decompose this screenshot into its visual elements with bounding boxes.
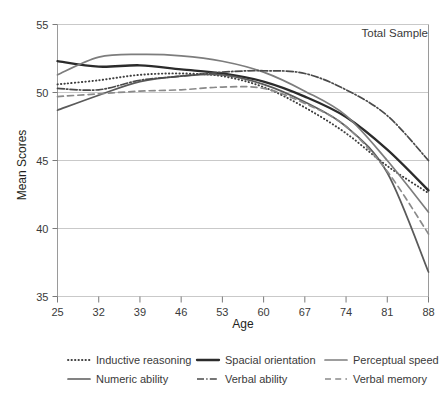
x-axis-title: Age [232,317,254,331]
x-tick-label: 53 [216,306,228,318]
legend-label: Inductive reasoning [96,354,191,366]
y-tick-label: 40 [36,223,48,235]
legend-label: Perceptual speed [353,354,439,366]
y-tick-label: 50 [36,87,48,99]
y-tick-label: 35 [36,291,48,303]
legend-item-verbal-ability[interactable]: Verbal ability [197,373,288,385]
x-tick-label: 60 [257,306,269,318]
x-tick-label: 39 [134,306,146,318]
series-line-inductive-reasoning [58,73,429,193]
chart-legend: Inductive reasoningSpacial orientationPe… [68,354,439,385]
x-tick-label: 81 [381,306,393,318]
legend-label: Numeric ability [96,373,169,385]
x-tick-label: 32 [93,306,105,318]
series-line-verbal-ability [58,71,429,161]
y-tick-label: 45 [36,155,48,167]
y-axis-title: Mean Scores [15,130,29,201]
x-tick-label: 88 [422,306,434,318]
line-chart: 25323946536067748188 5550454035 Age Mean… [0,0,448,393]
series-group [58,54,429,272]
legend-item-numeric-ability[interactable]: Numeric ability [68,373,169,385]
legend-item-perceptual-speed[interactable]: Perceptual speed [325,354,439,366]
x-tick-label: 25 [51,306,63,318]
legend-item-verbal-memory[interactable]: Verbal memory [325,373,427,385]
legend-label: Verbal ability [225,373,288,385]
y-tick-labels: 5550454035 [36,19,48,303]
x-tick-label: 46 [175,306,187,318]
chart-figure: 25323946536067748188 5550454035 Age Mean… [0,0,448,393]
x-tick-label: 67 [299,306,311,318]
x-tick-label: 74 [340,306,352,318]
legend-label: Spacial orientation [225,354,316,366]
legend-label: Verbal memory [353,373,427,385]
legend-item-inductive-reasoning[interactable]: Inductive reasoning [68,354,191,366]
total-sample-annotation: Total Sample [362,27,428,39]
legend-item-spacial-orientation[interactable]: Spacial orientation [197,354,316,366]
y-tick-label: 55 [36,19,48,31]
x-tick-labels: 25323946536067748188 [51,306,434,318]
